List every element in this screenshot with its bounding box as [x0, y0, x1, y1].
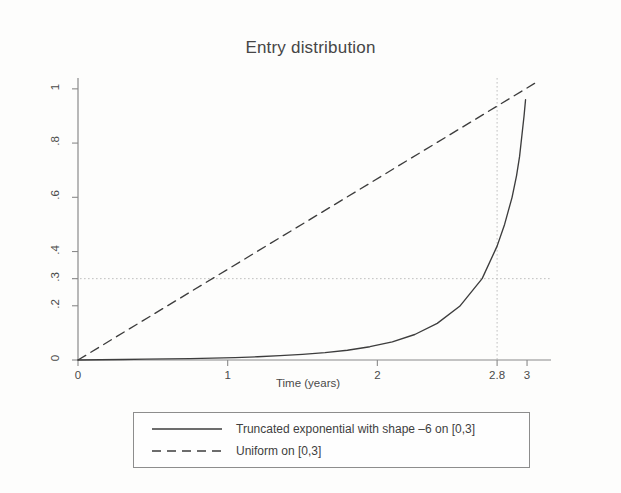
- chart-figure: Entry distribution Proportion accrued Ti…: [0, 0, 621, 493]
- y-tick-label-.6: .6: [49, 180, 61, 210]
- legend-label-truncated-exponential: Truncated exponential with shape –6 on […: [236, 422, 475, 436]
- y-tick-label-.2: .2: [49, 289, 61, 319]
- x-tick-label-3: 3: [507, 369, 547, 381]
- y-tick-label-.8: .8: [49, 126, 61, 156]
- series-line-truncated-exponential: [78, 100, 526, 360]
- legend-label-uniform: Uniform on [0,3]: [236, 444, 321, 458]
- legend-key-dashed-line-icon: [148, 444, 226, 458]
- tick-marks-group: [72, 89, 527, 366]
- x-tick-label-1: 1: [208, 369, 248, 381]
- legend-key-solid-line-icon: [148, 422, 226, 436]
- x-tick-label-0: 0: [58, 369, 98, 381]
- y-tick-label-.4: .4: [49, 235, 61, 265]
- y-tick-label-1: 1: [49, 72, 61, 102]
- series-line-uniform: [78, 83, 535, 360]
- y-tick-label-.3: .3: [49, 262, 61, 292]
- legend-entry-truncated-exponential: Truncated exponential with shape –6 on […: [134, 417, 475, 441]
- data-series-group: [78, 83, 535, 360]
- x-tick-label-2: 2: [357, 369, 397, 381]
- legend-entry-uniform: Uniform on [0,3]: [134, 439, 321, 463]
- chart-legend: Truncated exponential with shape –6 on […: [133, 412, 530, 468]
